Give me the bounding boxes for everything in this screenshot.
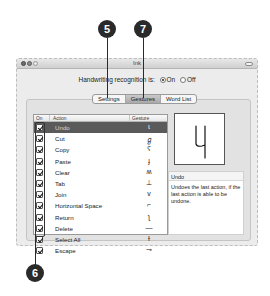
table-row[interactable]: Select All ɫ <box>34 234 167 245</box>
enabled-checkbox[interactable] <box>36 191 43 198</box>
action-label: Escape <box>55 247 76 254</box>
gesture-preview <box>174 113 225 165</box>
gesture-glyph-icon: ⊥ <box>144 179 154 187</box>
column-header-on[interactable]: On <box>36 116 42 121</box>
enabled-checkbox[interactable] <box>36 158 43 165</box>
table-header: On Action Gesture <box>34 115 167 122</box>
gesture-description: Undo Undoes the last action, if the last… <box>168 171 244 235</box>
enabled-checkbox[interactable] <box>36 135 43 142</box>
table-row[interactable]: Copy ʕ <box>34 144 167 155</box>
enabled-checkbox[interactable] <box>36 202 43 209</box>
table-row[interactable]: Escape ⊸ <box>34 245 167 256</box>
action-label: Undo <box>55 124 70 131</box>
column-header-gesture[interactable]: Gesture <box>132 116 149 121</box>
enabled-checkbox[interactable] <box>36 247 43 254</box>
gesture-glyph-icon: ⊸ <box>144 246 154 254</box>
tab-settings[interactable]: Settings <box>93 95 126 103</box>
gesture-glyph-icon: ⌐ <box>144 201 154 208</box>
callout-6: 6 <box>26 264 44 282</box>
action-label: Tab <box>55 180 65 187</box>
table-row[interactable]: Return ʅ <box>34 212 167 223</box>
gesture-glyph-icon: ɟ <box>144 157 154 164</box>
table-row[interactable]: Join v <box>34 189 167 200</box>
window-title: Ink <box>17 60 257 66</box>
gesture-glyph-icon: ɩ <box>144 123 154 130</box>
ink-window: Ink Handwriting recognition is: On Off S… <box>16 58 258 246</box>
enabled-checkbox[interactable] <box>36 146 43 153</box>
description-title: Undo <box>169 172 243 181</box>
enabled-checkbox[interactable] <box>36 124 43 131</box>
action-label: Clear <box>55 169 70 176</box>
radio-on[interactable] <box>160 77 166 83</box>
description-body: Undoes the last action, if the last acti… <box>169 181 243 208</box>
tab-word-list[interactable]: Word List <box>161 95 196 103</box>
action-label: Paste <box>55 158 71 165</box>
action-label: Copy <box>55 146 69 153</box>
enabled-checkbox[interactable] <box>36 169 43 176</box>
action-label: Delete <box>55 225 73 232</box>
recognition-row: Handwriting recognition is: On Off <box>17 76 257 83</box>
callout-5-leader <box>107 38 108 98</box>
gestures-table: On Action Gesture Undo ɩ Cut ℊ Copy ʕ <box>33 114 168 235</box>
title-bar[interactable]: Ink <box>17 59 257 69</box>
undo-gesture-icon <box>175 114 226 166</box>
table-row[interactable]: Delete — <box>34 223 167 234</box>
gesture-glyph-icon: ʍ <box>144 168 154 175</box>
enabled-checkbox[interactable] <box>36 214 43 221</box>
gesture-glyph-icon: — <box>144 224 154 231</box>
radio-off[interactable] <box>180 77 186 83</box>
enabled-checkbox[interactable] <box>36 180 43 187</box>
enabled-checkbox[interactable] <box>36 236 43 243</box>
callout-7: 7 <box>134 20 152 38</box>
callout-5: 5 <box>98 20 116 38</box>
table-row[interactable]: Cut ℊ <box>34 133 167 144</box>
table-row[interactable]: Clear ʍ <box>34 167 167 178</box>
callout-7-leader <box>143 38 144 98</box>
table-row[interactable]: Undo ɩ <box>34 122 167 133</box>
callout-6-leader <box>35 234 36 265</box>
table-row[interactable]: Horizontal Space ⌐ <box>34 200 167 211</box>
gesture-glyph-icon: v <box>144 190 154 197</box>
toolbar-toggle-button[interactable] <box>245 62 253 66</box>
column-header-action[interactable]: Action <box>53 116 66 121</box>
table-row[interactable]: Tab ⊥ <box>34 178 167 189</box>
radio-off-label[interactable]: Off <box>187 76 196 83</box>
action-label: Select All <box>55 236 80 243</box>
gesture-glyph-icon: ʕ <box>144 145 154 152</box>
enabled-checkbox[interactable] <box>36 225 43 232</box>
action-label: Join <box>55 191 66 198</box>
action-label: Cut <box>55 135 65 142</box>
gesture-glyph-icon: ʅ <box>144 213 154 220</box>
action-label: Return <box>55 214 74 221</box>
table-row[interactable]: Paste ɟ <box>34 156 167 167</box>
radio-on-label[interactable]: On <box>167 76 176 83</box>
gesture-glyph-icon: ɫ <box>144 235 154 242</box>
action-label: Horizontal Space <box>55 202 102 209</box>
gestures-pane: On Action Gesture Undo ɩ Cut ℊ Copy ʕ <box>26 99 251 241</box>
gesture-glyph-icon: ℊ <box>144 134 154 144</box>
